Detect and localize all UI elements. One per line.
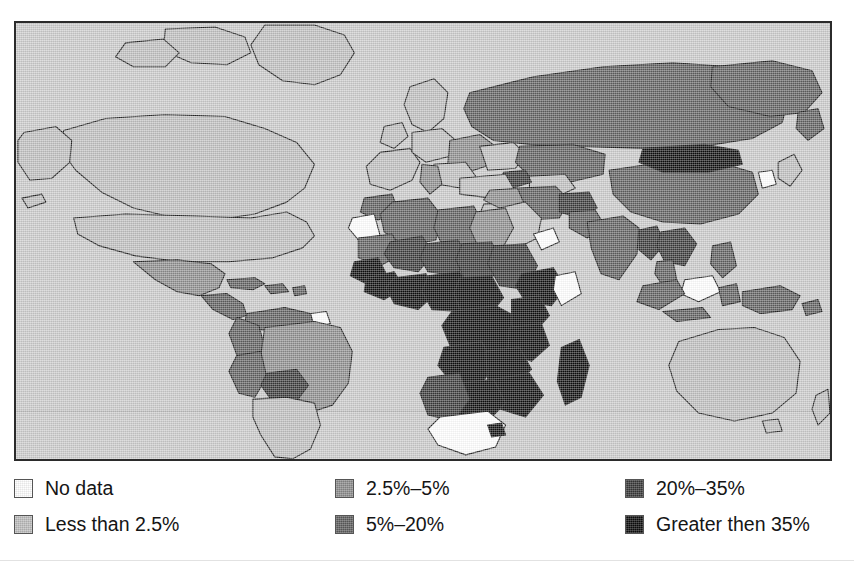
legend-item-20-to-35[interactable]: 20%–35% [625, 470, 854, 506]
legend-label-greater-then-35: Greater then 35% [656, 514, 810, 534]
legend-swatch-greater-then-35 [625, 515, 644, 534]
legend-swatch-5-to-20 [335, 515, 354, 534]
legend-label-less-than-2-5: Less than 2.5% [45, 514, 179, 534]
legend-label-5-to-20: 5%–20% [366, 514, 444, 534]
page-bottom-edge [0, 560, 854, 561]
legend-label-2-5-to-5: 2.5%–5% [366, 478, 449, 498]
legend-item-5-to-20[interactable]: 5%–20% [335, 506, 585, 542]
legend-item-no-data[interactable]: No data [14, 470, 264, 506]
legend-label-no-data: No data [45, 478, 113, 498]
region-egypt [470, 208, 514, 246]
world-map-svg: .c { stroke:#1f1f1f; stroke-width:1.1; s… [16, 23, 830, 461]
region-mongolia [639, 144, 742, 172]
legend-column-1: No data Less than 2.5% [14, 470, 264, 542]
legend-swatch-2-5-to-5 [335, 479, 354, 498]
legend-item-greater-then-35[interactable]: Greater then 35% [625, 506, 854, 542]
figure-title [0, 0, 854, 9]
region-sulawesi [719, 284, 741, 306]
region-tasmania [762, 419, 782, 433]
legend-swatch-less-than-2-5 [14, 515, 33, 534]
legend-swatch-no-data [14, 479, 33, 498]
legend-swatch-20-to-35 [625, 479, 644, 498]
choropleth-figure: .c { stroke:#1f1f1f; stroke-width:1.1; s… [0, 0, 854, 563]
legend-item-less-than-2-5[interactable]: Less than 2.5% [14, 506, 264, 542]
world-map-panel: .c { stroke:#1f1f1f; stroke-width:1.1; s… [14, 21, 832, 461]
legend-column-2: 2.5%–5% 5%–20% [335, 470, 585, 542]
legend-column-3: 20%–35% Greater then 35% [625, 470, 854, 542]
region-lesser-antilles [293, 286, 307, 296]
map-legend: No data Less than 2.5% 2.5%–5% 5%–20% 20… [14, 470, 840, 542]
legend-label-20-to-35: 20%–35% [656, 478, 745, 498]
legend-item-2-5-to-5[interactable]: 2.5%–5% [335, 470, 585, 506]
